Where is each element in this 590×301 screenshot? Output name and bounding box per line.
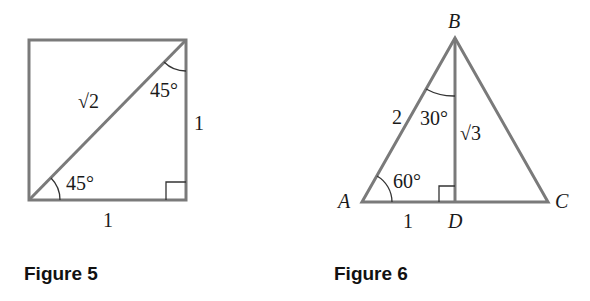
angle-a-label: 60° [393, 170, 421, 192]
figure6-triangle [362, 38, 548, 202]
figure6-caption: Figure 6 [334, 263, 408, 285]
vertex-d-label: D [447, 210, 463, 232]
diagram-canvas: √2 45° 45° 1 1 B A C D 2 1 √3 30° 60° [0, 0, 590, 301]
side-bottom-label: 1 [103, 209, 113, 231]
side-ab-label: 2 [392, 106, 402, 128]
vertex-b-label: B [448, 10, 460, 32]
side-ad-label: 1 [403, 210, 413, 232]
side-bd-label: √3 [460, 122, 481, 144]
vertex-c-label: C [555, 190, 569, 212]
side-right-label: 1 [194, 112, 204, 134]
diagonal-label: √2 [78, 90, 99, 112]
angle-b-label: 30° [420, 107, 448, 129]
angle-top-label: 45° [150, 79, 178, 101]
figure5-square [29, 40, 186, 200]
figure5-caption: Figure 5 [24, 263, 98, 285]
angle-bottom-label: 45° [66, 172, 94, 194]
vertex-a-label: A [336, 190, 351, 212]
